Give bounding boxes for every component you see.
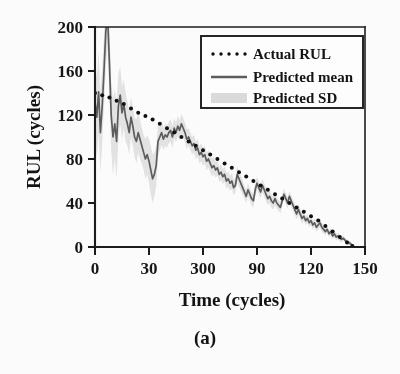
x-tick-label: 30 — [141, 259, 158, 278]
actual-rul-point — [295, 205, 299, 209]
actual-rul-point — [122, 102, 126, 106]
actual-rul-point — [237, 170, 241, 174]
y-axis-tick-labels: 04080120160200 — [58, 18, 84, 257]
legend-label-predicted-sd: Predicted SD — [253, 90, 337, 106]
actual-rul-point — [338, 235, 342, 239]
legend-band-swatch — [211, 93, 247, 103]
y-tick-label: 200 — [58, 18, 84, 37]
x-axis-tick-labels: 03030090120150 — [91, 259, 378, 278]
actual-rul-point — [280, 197, 284, 201]
actual-rul-point — [251, 179, 255, 183]
figure-panel: 04080120160200 03030090120150 RUL (cycle… — [0, 0, 400, 374]
rul-prediction-chart: 04080120160200 03030090120150 RUL (cycle… — [0, 0, 400, 374]
x-tick-label: 300 — [190, 259, 216, 278]
legend-dot — [211, 52, 214, 55]
legend-dot — [219, 52, 222, 55]
actual-rul-point — [143, 114, 147, 118]
y-tick-label: 160 — [58, 62, 84, 81]
chart-legend: Actual RUL Predicted mean Predicted SD — [201, 36, 363, 108]
actual-rul-point — [165, 126, 169, 130]
y-tick-label: 120 — [58, 106, 84, 125]
actual-rul-point — [323, 224, 327, 228]
actual-rul-point — [266, 188, 270, 192]
actual-rul-point — [273, 192, 277, 196]
actual-rul-point — [151, 117, 155, 121]
actual-rul-point — [179, 135, 183, 139]
actual-rul-point — [302, 210, 306, 214]
x-axis-title: Time (cycles) — [179, 289, 286, 311]
actual-rul-point — [259, 183, 263, 187]
actual-rul-point — [223, 161, 227, 165]
actual-rul-point — [172, 131, 176, 135]
y-tick-label: 80 — [66, 150, 83, 169]
actual-rul-point — [115, 99, 119, 103]
actual-rul-point — [309, 214, 313, 218]
actual-rul-point — [100, 93, 104, 97]
x-tick-label: 150 — [352, 259, 378, 278]
actual-rul-point — [194, 144, 198, 148]
actual-rul-point — [244, 175, 248, 179]
actual-rul-point — [158, 122, 162, 126]
y-tick-label: 0 — [75, 238, 84, 257]
x-tick-label: 0 — [91, 259, 100, 278]
actual-rul-point — [129, 106, 133, 110]
actual-rul-point — [187, 139, 191, 143]
actual-rul-point — [345, 241, 349, 245]
actual-rul-point — [316, 219, 320, 223]
actual-rul-point — [136, 111, 140, 115]
x-tick-label: 120 — [298, 259, 324, 278]
legend-dot — [235, 52, 238, 55]
legend-dot — [227, 52, 230, 55]
legend-dot — [243, 52, 246, 55]
actual-rul-point — [215, 157, 219, 161]
actual-rul-point — [201, 148, 205, 152]
actual-rul-point — [287, 201, 291, 205]
x-tick-label: 90 — [249, 259, 266, 278]
actual-rul-point — [107, 95, 111, 99]
actual-rul-point — [331, 230, 335, 234]
y-axis-title: RUL (cycles) — [23, 85, 45, 189]
figure-caption: (a) — [194, 327, 216, 349]
legend-label-predicted-mean: Predicted mean — [253, 69, 354, 85]
actual-rul-point — [230, 166, 234, 170]
y-tick-label: 40 — [66, 194, 83, 213]
x-axis-ticks — [95, 247, 365, 255]
legend-label-actual-rul: Actual RUL — [253, 46, 331, 62]
actual-rul-point — [208, 153, 212, 157]
